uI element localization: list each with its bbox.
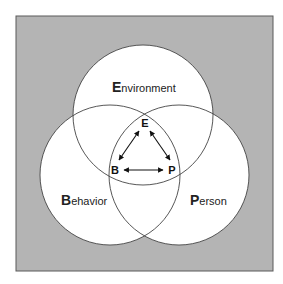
label-environment-initial: E bbox=[112, 79, 121, 95]
label-person-initial: P bbox=[190, 192, 199, 208]
node-p: P bbox=[168, 164, 175, 176]
node-b: B bbox=[111, 164, 119, 176]
label-behavior: Behavior bbox=[61, 192, 108, 208]
venn-diagram: Environment Behavior Person E B P bbox=[0, 0, 283, 284]
label-environment: Environment bbox=[112, 79, 176, 95]
label-behavior-rest: ehavior bbox=[71, 195, 107, 207]
label-behavior-initial: B bbox=[61, 192, 71, 208]
label-environment-rest: nvironment bbox=[121, 82, 175, 94]
label-person: Person bbox=[190, 192, 227, 208]
node-e: E bbox=[141, 117, 148, 129]
label-person-rest: erson bbox=[199, 195, 227, 207]
